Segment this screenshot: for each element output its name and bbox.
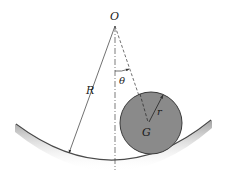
label-theta: θ (119, 75, 125, 86)
bowl-surface (15, 120, 212, 171)
label-g: G (142, 126, 151, 139)
diagram-canvas: O R θ r G (0, 0, 228, 179)
label-o: O (110, 10, 119, 23)
rolling-disk (120, 92, 182, 154)
angle-arc (115, 69, 129, 71)
label-r-bowl: R (85, 84, 94, 97)
